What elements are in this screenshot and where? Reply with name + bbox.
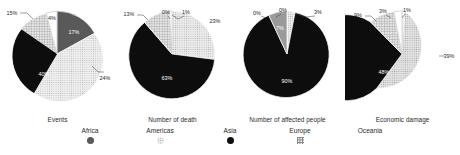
pie-label-oceania: 1% xyxy=(182,9,190,15)
leader-europe xyxy=(137,15,148,20)
pie-label-asia: 48% xyxy=(379,69,390,75)
pie-label-europe: 13% xyxy=(124,11,135,17)
pie-label-africa: 17% xyxy=(69,29,80,35)
oceania-swatch-icon xyxy=(367,137,374,144)
legend-label-europe: Europe xyxy=(289,126,310,135)
chart-title-number-of-death: Number of death xyxy=(115,116,230,124)
pie-label-americas: 0% xyxy=(279,7,287,13)
charts-row: 17% 24% 40% 15% 4% Events xyxy=(0,0,460,126)
pie-svg-economic-damage: 39% 48% 9% 3% 1% xyxy=(345,0,460,112)
pie-chart-number-of-death: 23% 63% 13% 1% 0% Number of death xyxy=(115,0,230,126)
legend-item-europe[interactable]: Europe xyxy=(269,126,331,144)
chart-title-number-of-affected-people: Number of affected people xyxy=(230,116,345,124)
pie-svg-events: 17% 24% 40% 15% 4% xyxy=(0,0,115,112)
pie-slice-africa xyxy=(172,11,215,59)
pie-label-europe: 9% xyxy=(354,12,362,18)
leader-europe xyxy=(20,13,33,19)
legend-label-oceania: Oceania xyxy=(358,126,383,135)
pie-label-americas: 39% xyxy=(444,53,455,59)
pie-chart-events: 17% 24% 40% 15% 4% Events xyxy=(0,0,115,126)
chart-title-events: Events xyxy=(0,116,115,124)
legend: Africa Americas Asia Europe Oceania xyxy=(0,126,460,155)
africa-swatch-icon xyxy=(87,137,94,144)
pie-label-africa: 1% xyxy=(403,7,411,13)
pie-chart-number-of-affected-people: 7% 90% 3% 0% 0% Number of affected peopl… xyxy=(230,0,345,126)
pie-label-europe: 15% xyxy=(7,10,18,16)
legend-label-americas: Americas xyxy=(146,126,173,135)
pie-label-africa: 3% xyxy=(314,9,322,15)
legend-item-asia[interactable]: Asia xyxy=(199,126,261,144)
pie-svg-number-of-affected-people: 7% 90% 3% 0% 0% xyxy=(230,0,345,112)
pie-label-americas: 24% xyxy=(100,75,111,81)
pie-label-oceania: 0% xyxy=(253,10,261,16)
chart-title-economic-damage: Economic damage xyxy=(345,116,460,124)
legend-label-africa: Africa xyxy=(82,126,99,135)
legend-label-asia: Asia xyxy=(224,126,237,135)
pie-chart-economic-damage: 39% 48% 9% 3% 1% Economic damage xyxy=(345,0,460,126)
pie-label-americas: 0% xyxy=(162,9,170,15)
legend-item-americas[interactable]: Americas xyxy=(129,126,191,144)
pie-label-africa: 23% xyxy=(210,18,221,24)
pie-label-europe: 7% xyxy=(276,25,284,31)
pie-label-asia: 63% xyxy=(162,75,173,81)
pie-svg-number-of-death: 23% 63% 13% 1% 0% xyxy=(115,0,230,112)
legend-item-oceania[interactable]: Oceania xyxy=(339,126,401,144)
americas-swatch-icon xyxy=(157,137,164,144)
legend-item-africa[interactable]: Africa xyxy=(59,126,121,144)
pie-label-oceania: 3% xyxy=(379,8,387,14)
asia-swatch-icon xyxy=(227,137,234,144)
pie-label-asia: 40% xyxy=(39,71,50,77)
pie-label-asia: 90% xyxy=(282,78,293,84)
pie-label-oceania: 4% xyxy=(48,15,56,21)
pie-chart-figure: 17% 24% 40% 15% 4% Events xyxy=(0,0,460,155)
europe-swatch-icon xyxy=(297,137,304,144)
